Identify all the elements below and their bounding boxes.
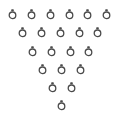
ring-icon xyxy=(47,46,56,57)
ring-icon xyxy=(75,27,84,38)
ring-icon xyxy=(48,82,57,93)
ring-icon xyxy=(76,64,85,75)
ring-icon xyxy=(28,46,37,57)
ring-icon xyxy=(67,82,76,93)
ring-icon xyxy=(84,46,93,57)
ring-triangle xyxy=(0,0,113,116)
ring-icon xyxy=(57,64,66,75)
ring-icon xyxy=(46,9,55,20)
ring-icon xyxy=(56,27,65,38)
ring-icon xyxy=(8,9,17,20)
ring-icon xyxy=(57,100,66,111)
ring-icon xyxy=(38,64,47,75)
ring-icon xyxy=(65,9,74,20)
ring-icon xyxy=(83,9,92,20)
ring-icon xyxy=(66,46,75,57)
ring-icon xyxy=(93,27,102,38)
ring-icon xyxy=(18,27,27,38)
ring-icon xyxy=(102,9,111,20)
ring-icon xyxy=(27,9,36,20)
ring-icon xyxy=(37,27,46,38)
